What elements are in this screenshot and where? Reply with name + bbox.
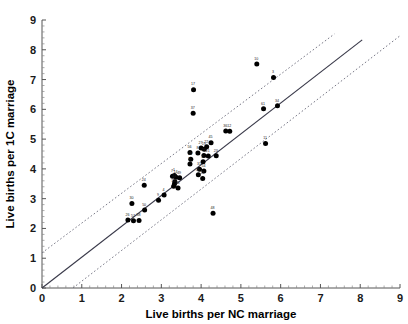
data-point-label: 21 (206, 149, 210, 153)
data-point-label: 54 (201, 164, 205, 168)
y-axis-tick-label: 3 (30, 193, 36, 205)
data-point-label: 5 (188, 157, 190, 161)
data-point[interactable] (187, 162, 192, 167)
data-point[interactable] (261, 106, 266, 111)
data-point[interactable] (142, 207, 147, 212)
data-point-label: 10 (254, 57, 258, 61)
y-axis-tick-label: 1 (30, 252, 36, 264)
x-axis-tick-label: 4 (198, 292, 205, 304)
data-point[interactable] (263, 141, 268, 146)
x-axis-tick-label: 8 (357, 292, 363, 304)
data-point[interactable] (142, 183, 147, 188)
data-point-label: 23 (214, 149, 218, 153)
data-point-label: 12 (227, 124, 231, 128)
data-point-label: 9 (157, 193, 159, 197)
data-point-label: 4 (163, 188, 165, 192)
data-point-label: 28 (200, 171, 204, 175)
y-axis-tick-label: 9 (30, 14, 36, 26)
data-point-label: 24 (142, 178, 146, 182)
data-point-label: 61 (261, 102, 265, 106)
data-point-label: 19 (202, 142, 206, 146)
data-point[interactable] (214, 153, 219, 158)
data-point[interactable] (162, 193, 167, 198)
data-point[interactable] (129, 201, 134, 206)
x-axis-tick-label: 0 (39, 292, 45, 304)
data-point-label: 50 (142, 203, 146, 207)
x-axis-tick-label: 1 (79, 292, 85, 304)
y-axis-tick-label: 5 (30, 133, 36, 145)
data-point[interactable] (200, 176, 205, 181)
x-axis-tick-label: 7 (317, 292, 323, 304)
data-point[interactable] (211, 211, 216, 216)
data-point[interactable] (227, 129, 232, 134)
y-axis-tick-label: 2 (30, 222, 36, 234)
data-point[interactable] (271, 75, 276, 80)
x-axis-tick-label: 6 (278, 292, 284, 304)
data-point-label: 45 (209, 135, 213, 139)
data-point-label: 29 (188, 152, 192, 156)
data-point[interactable] (137, 218, 142, 223)
x-axis-tick-label: 5 (238, 292, 244, 304)
data-point[interactable] (275, 103, 280, 108)
y-axis-tick-label: 4 (30, 163, 37, 175)
data-point[interactable] (191, 111, 196, 116)
data-point-label: 30 (129, 196, 133, 200)
data-point-label: 37 (191, 106, 195, 110)
data-point[interactable] (254, 62, 259, 67)
y-axis-tick-label: 8 (30, 44, 36, 56)
data-point[interactable] (125, 218, 130, 223)
upper-prediction-band (42, 34, 334, 253)
data-point-label: 58 (137, 213, 141, 217)
data-point-label: 26 (125, 213, 129, 217)
y-axis-tick-label: 7 (30, 74, 36, 86)
data-point[interactable] (191, 87, 196, 92)
data-point-label: 17 (191, 82, 195, 86)
data-point[interactable] (209, 140, 214, 145)
data-point[interactable] (177, 175, 182, 180)
data-point-label: 57 (131, 214, 135, 218)
data-point-label: 56 (187, 145, 191, 149)
y-axis-tick-label: 0 (30, 282, 36, 294)
data-point-label: 49 (177, 171, 181, 175)
data-point-label: 8 (196, 146, 198, 150)
data-point-label: 48 (211, 206, 215, 210)
data-point[interactable] (156, 198, 161, 203)
x-axis-tick-label: 3 (158, 292, 164, 304)
scatter-chart: 01234567890123456789Live births per NC m… (0, 0, 408, 324)
data-point[interactable] (176, 185, 181, 190)
x-axis-tick-label: 9 (397, 292, 403, 304)
data-point-label: 2 (202, 155, 204, 159)
data-point-label: 35 (176, 181, 180, 185)
lower-prediction-band (73, 36, 400, 288)
data-point[interactable] (131, 218, 136, 223)
x-axis-tick-label: 2 (118, 292, 124, 304)
y-axis-title: Live births per 1C marriage (4, 80, 16, 229)
data-point-label: 3 (272, 70, 274, 74)
x-axis-title: Live births per NC marriage (146, 308, 297, 320)
data-point[interactable] (206, 154, 211, 159)
plot-canvas: 01234567890123456789Live births per NC m… (0, 0, 408, 324)
y-axis-tick-label: 6 (30, 103, 36, 115)
data-point[interactable] (195, 151, 200, 156)
data-point-label: 34 (275, 99, 279, 103)
data-point-label: 11 (263, 136, 267, 140)
